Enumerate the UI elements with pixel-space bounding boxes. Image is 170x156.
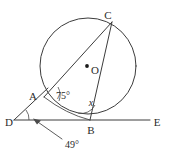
leader-arrow-to-angle-d xyxy=(35,120,62,139)
point-label-b: B xyxy=(87,124,94,136)
point-label-c: C xyxy=(104,9,111,21)
chord-ac xyxy=(44,22,112,97)
point-label-d: D xyxy=(5,116,13,128)
center-dot-icon xyxy=(85,64,89,68)
angle-arc-d xyxy=(26,110,29,120)
angle-label-75: 75° xyxy=(56,90,70,101)
angle-label-49: 49° xyxy=(65,139,79,150)
point-label-a: A xyxy=(29,90,37,102)
geometry-diagram-root: C A B D E O 75° x 49° xyxy=(0,0,170,156)
point-label-o: O xyxy=(91,64,99,76)
angle-label-x: x xyxy=(88,97,94,108)
geometry-canvas: C A B D E O 75° x 49° xyxy=(0,0,170,156)
point-label-e: E xyxy=(154,116,161,128)
